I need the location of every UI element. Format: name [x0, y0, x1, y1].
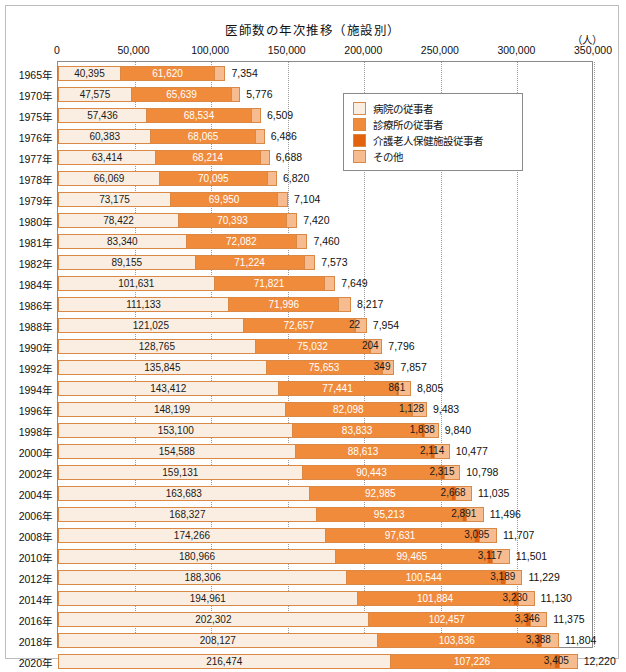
segment-value-other: 8,217: [357, 298, 383, 310]
bar-segment-4: [286, 213, 297, 228]
segment-value: 154,588: [159, 447, 195, 457]
plot-area: 1965年40,39561,6207,3541970年47,57565,6395…: [57, 61, 593, 648]
stacked-bar: 163,68392,985: [58, 486, 472, 501]
bar-segment-2: 61,620: [120, 66, 214, 81]
bar-row: 1988年121,02572,657227,954: [58, 315, 592, 336]
bar-segment-1: 202,302: [58, 612, 368, 627]
bar-segment-2: 70,393: [178, 213, 286, 228]
bar-segment-2: 72,082: [186, 234, 296, 249]
stacked-bar: 89,15571,224: [58, 255, 315, 270]
stacked-bar: 63,41468,214: [58, 150, 270, 165]
stacked-bar: 188,306100,544: [58, 570, 522, 585]
stacked-bar: 66,06970,095: [58, 171, 277, 186]
segment-value-care-overlay: 3,405: [544, 655, 569, 666]
segment-value: 111,133: [126, 300, 161, 310]
legend-item-3: 介護老人保健施設従事者: [353, 132, 513, 148]
bar-segment-2: 100,544: [346, 570, 500, 585]
segment-value: 103,836: [439, 636, 475, 646]
bar-row: 2016年202,302102,4573,34611,375: [58, 609, 592, 630]
bar-segment-2: 70,095: [159, 171, 266, 186]
segment-value-care-overlay: 2,891: [451, 508, 476, 519]
segment-value: 89,155: [111, 258, 142, 268]
year-label: 2004年: [19, 487, 52, 502]
segment-value: 174,266: [174, 531, 210, 541]
year-label: 1996年: [19, 403, 52, 418]
year-label: 1982年: [19, 256, 52, 271]
segment-value-care-overlay: 1,838: [410, 424, 435, 435]
year-label: 1970年: [19, 88, 52, 103]
bar-segment-2: 68,065: [150, 129, 254, 144]
segment-value-care-overlay: 349: [374, 361, 391, 372]
year-label: 1986年: [19, 298, 52, 313]
segment-value-other: 7,649: [341, 277, 367, 289]
x-axis-tick-200000: 200,000: [344, 44, 382, 56]
segment-value: 72,082: [226, 237, 257, 247]
segment-value-other: 9,840: [445, 424, 471, 436]
bar-segment-4: [304, 255, 316, 270]
bar-row: 1982年89,15571,2247,573: [58, 252, 592, 273]
bar-segment-4: [267, 171, 277, 186]
bar-segment-4: [338, 297, 351, 312]
year-label: 1988年: [19, 319, 52, 334]
segment-value: 75,032: [297, 342, 328, 352]
bar-segment-1: 89,155: [58, 255, 195, 270]
bar-row: 1980年78,42270,3937,420: [58, 210, 592, 231]
bar-segment-2: 65,639: [131, 87, 232, 102]
segment-value-other: 11,229: [528, 571, 559, 583]
year-label: 1965年: [19, 67, 52, 82]
bar-segment-2: 82,098: [285, 402, 411, 417]
year-label: 2008年: [19, 529, 52, 544]
year-label: 1979年: [19, 193, 52, 208]
x-axis-tick-100000: 100,000: [191, 44, 229, 56]
year-label: 1990年: [19, 340, 52, 355]
year-label: 2020年: [19, 655, 52, 670]
year-label: 2000年: [19, 445, 52, 460]
bar-segment-1: 66,069: [58, 171, 159, 186]
bar-segment-1: 154,588: [58, 444, 295, 459]
segment-value-other: 7,460: [313, 235, 339, 247]
stacked-bar: 101,63171,821: [58, 276, 335, 291]
segment-value-other: 9,483: [433, 403, 459, 415]
bar-row: 1992年135,84575,6533497,857: [58, 357, 592, 378]
segment-value-other: 11,707: [503, 529, 534, 541]
segment-value: 83,340: [107, 237, 138, 247]
segment-value: 57,436: [87, 111, 118, 121]
legend-label: 介護老人保健施設従事者: [373, 133, 483, 148]
segment-value: 78,422: [103, 216, 134, 226]
bar-row: 1965年40,39561,6207,354: [58, 63, 592, 84]
bar-row: 2020年216,474107,2263,40512,220: [58, 651, 592, 672]
bar-segment-2: 77,441: [278, 381, 397, 396]
segment-value: 66,069: [94, 174, 125, 184]
bar-segment-1: 83,340: [58, 234, 186, 249]
bar-segment-1: 135,845: [58, 360, 266, 375]
bar-segment-4: [324, 276, 336, 291]
segment-value: 163,683: [166, 489, 202, 499]
x-axis-tick-50000: 50,000: [118, 44, 150, 56]
legend-item-1: 病院の従事者: [353, 100, 513, 116]
segment-value: 92,985: [365, 489, 396, 499]
bar-row: 1986年111,13371,9968,217: [58, 294, 592, 315]
stacked-bar: 121,02572,657: [58, 318, 367, 333]
bar-row: 1994年143,41277,4418618,805: [58, 378, 592, 399]
segment-value: 61,620: [152, 69, 183, 79]
segment-value-care-overlay: 3,388: [526, 634, 551, 645]
bar-row: 1984年101,63171,8217,649: [58, 273, 592, 294]
segment-value: 47,575: [80, 90, 111, 100]
segment-value: 65,639: [166, 90, 197, 100]
bar-row: 2010年180,96699,4653,11711,501: [58, 546, 592, 567]
year-label: 2016年: [19, 613, 52, 628]
bar-row: 1990年128,76575,0322047,796: [58, 336, 592, 357]
stacked-bar: 135,84575,653: [58, 360, 394, 375]
year-label: 1981年: [19, 235, 52, 250]
segment-value: 83,833: [342, 426, 373, 436]
segment-value: 70,095: [198, 174, 229, 184]
segment-value: 72,657: [283, 321, 314, 331]
stacked-bar: 168,32795,213: [58, 507, 484, 522]
bar-segment-1: 188,306: [58, 570, 346, 585]
legend-label: その他: [373, 149, 403, 164]
segment-value-care-overlay: 2,315: [429, 466, 454, 477]
bar-segment-1: 174,266: [58, 528, 325, 543]
segment-value: 90,443: [356, 468, 387, 478]
stacked-bar: 73,17569,950: [58, 192, 288, 207]
bar-segment-1: 180,966: [58, 549, 335, 564]
